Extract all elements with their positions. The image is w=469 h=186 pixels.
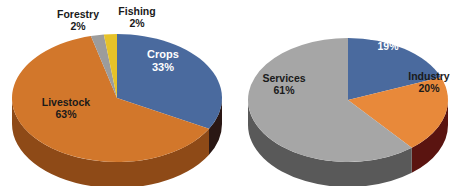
agriculture-pie-svg [0, 0, 235, 186]
pie-charts-figure: Forestry 2% Fishing 2% Crops 33% Livesto… [0, 0, 469, 186]
agriculture-composition-chart: Forestry 2% Fishing 2% Crops 33% Livesto… [0, 0, 235, 186]
gdp-sector-composition-chart [235, 0, 469, 186]
gdp-sector-pie-svg [235, 0, 469, 186]
